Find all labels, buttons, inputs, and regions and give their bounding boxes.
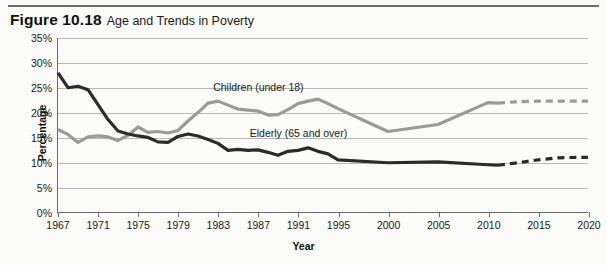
x-tick-label: 2010 (477, 219, 500, 231)
x-tick-label: 2015 (527, 219, 550, 231)
x-tick-mark (589, 212, 590, 217)
series-label: Elderly (65 and over) (250, 127, 347, 139)
x-tick-mark (389, 212, 390, 217)
y-tick-label: 30% (31, 57, 52, 69)
x-tick-label: 1967 (46, 219, 69, 231)
figure-number: Figure 10.18 (10, 11, 102, 28)
y-tick-label: 0% (37, 207, 52, 219)
header-rule (8, 5, 599, 7)
x-tick-label: 1979 (167, 219, 190, 231)
series-label: Children (under 18) (213, 81, 303, 93)
figure-caption: Figure 10.18Age and Trends in Poverty (10, 11, 254, 29)
x-tick-label: 1995 (327, 219, 350, 231)
series-line (498, 101, 588, 103)
x-tick-mark (439, 212, 440, 217)
x-tick-mark (218, 212, 219, 217)
plot-area: 0%5%10%15%20%25%30%35% 19671971197519791… (57, 38, 588, 213)
x-tick-label: 2020 (577, 219, 600, 231)
series-lines (58, 38, 588, 212)
x-tick-mark (258, 212, 259, 217)
x-tick-label: 1971 (86, 219, 109, 231)
y-tick-label: 10% (31, 157, 52, 169)
x-tick-label: 1991 (287, 219, 310, 231)
x-tick-label: 2000 (377, 219, 400, 231)
y-tick-label: 20% (31, 107, 52, 119)
x-tick-label: 1975 (126, 219, 149, 231)
x-tick-label: 1987 (247, 219, 270, 231)
series-line (498, 157, 588, 165)
x-tick-mark (539, 212, 540, 217)
x-tick-mark (339, 212, 340, 217)
x-tick-label: 2005 (427, 219, 450, 231)
x-tick-label: 1983 (207, 219, 230, 231)
x-tick-mark (58, 212, 59, 217)
y-tick-label: 15% (31, 132, 52, 144)
x-tick-mark (489, 212, 490, 217)
x-tick-mark (138, 212, 139, 217)
y-tick-label: 25% (31, 82, 52, 94)
figure-title: Age and Trends in Poverty (107, 14, 254, 28)
x-axis-title: Year (0, 240, 607, 252)
y-tick-label: 5% (37, 182, 52, 194)
y-tick-label: 35% (31, 32, 52, 44)
x-tick-mark (178, 212, 179, 217)
x-tick-mark (298, 212, 299, 217)
x-tick-mark (98, 212, 99, 217)
figure-container: Figure 10.18Age and Trends in Poverty Pe… (0, 0, 607, 265)
